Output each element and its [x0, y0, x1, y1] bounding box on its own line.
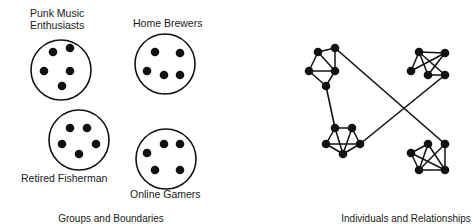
- groups-and-boundaries-panel: [31, 34, 196, 189]
- member-dot: [58, 82, 67, 91]
- group-1: [135, 34, 195, 94]
- relationship-edge: [411, 53, 445, 71]
- member-dot: [66, 44, 75, 53]
- individual-node: [415, 48, 424, 57]
- member-dot: [75, 150, 84, 159]
- individual-node: [356, 140, 365, 149]
- group-boundary-circle: [135, 34, 195, 94]
- member-dot: [58, 140, 67, 149]
- diagram-canvas: Punk Music Enthusiasts Home Brewers Reti…: [0, 0, 472, 224]
- individual-node: [441, 49, 450, 58]
- group-label-home-brewers: Home Brewers: [133, 17, 202, 29]
- member-dot: [176, 71, 185, 80]
- individual-node: [407, 149, 416, 158]
- group-label-punk-line1: Punk Music: [30, 7, 84, 19]
- cluster-bottom-right: [407, 140, 450, 175]
- member-dot: [143, 67, 152, 76]
- member-dot: [151, 166, 160, 175]
- member-dot: [160, 140, 169, 149]
- member-dot: [49, 48, 58, 57]
- member-dot: [143, 149, 152, 158]
- individual-node: [424, 71, 433, 80]
- individual-node: [441, 166, 450, 175]
- group-label-punk-line2: Enthusiasts: [30, 19, 84, 31]
- member-dot: [176, 166, 185, 175]
- individual-node: [314, 48, 323, 57]
- member-dot: [66, 67, 75, 76]
- member-dot: [83, 124, 92, 133]
- individual-node: [322, 140, 331, 149]
- member-dot: [66, 124, 75, 133]
- individual-node: [441, 140, 450, 149]
- individual-node: [331, 44, 340, 53]
- group-3: [136, 129, 196, 189]
- member-dot: [176, 49, 185, 58]
- caption-individuals-and-relationships: Individuals and Relationships: [341, 213, 471, 224]
- member-dot: [151, 48, 160, 57]
- member-dot: [176, 140, 185, 149]
- member-dot: [92, 140, 101, 149]
- group-label-online-gamers: Online Gamers: [130, 188, 201, 200]
- group-boundary-circle: [136, 129, 196, 189]
- individual-node: [424, 140, 433, 149]
- individual-node: [415, 166, 424, 175]
- cluster-top-right: [407, 48, 450, 80]
- bridge-edge: [326, 86, 335, 128]
- individual-node: [322, 82, 331, 91]
- individual-node: [331, 124, 340, 133]
- group-label-retired-fisherman: Retired Fisherman: [21, 172, 108, 184]
- individual-node: [339, 150, 348, 159]
- group-2: [49, 110, 109, 170]
- individual-node: [441, 71, 450, 80]
- group-boundary-circle: [49, 110, 109, 170]
- cluster-bottom-left: [322, 124, 365, 159]
- individual-node: [331, 67, 340, 76]
- individuals-and-relationships-panel: [305, 44, 450, 175]
- cluster-top-left: [305, 44, 340, 91]
- group-0: [31, 40, 91, 100]
- member-dot: [40, 67, 49, 76]
- member-dot: [160, 71, 169, 80]
- individual-node: [407, 67, 416, 76]
- individual-node: [348, 124, 357, 133]
- caption-groups-and-boundaries: Groups and Boundaries: [58, 213, 164, 224]
- individual-node: [305, 67, 314, 76]
